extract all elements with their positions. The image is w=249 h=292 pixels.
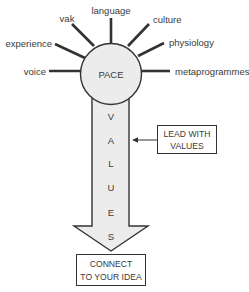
- arrow-letter-a: A: [108, 135, 115, 146]
- pace-diagram: voice experience vak language culture ph…: [0, 0, 249, 292]
- label-physiology: physiology: [169, 37, 214, 48]
- label-experience: experience: [6, 38, 52, 49]
- label-voice: voice: [24, 66, 46, 77]
- pace-label: PACE: [98, 69, 123, 80]
- arrow-letter-u: U: [108, 182, 115, 193]
- label-language: language: [91, 5, 130, 16]
- spoke-physiology: [138, 43, 164, 56]
- bottom-box-line2: TO YOUR IDEA: [80, 272, 142, 282]
- side-box-line1: LEAD WITH: [164, 129, 211, 139]
- arrow-letter-v: V: [108, 111, 115, 122]
- spoke-experience: [55, 44, 85, 58]
- label-metaprogrammes: metaprogrammes: [175, 66, 249, 77]
- arrow-letter-l: L: [108, 158, 113, 169]
- bottom-box-line1: CONNECT: [90, 259, 133, 269]
- arrow-letter-e: E: [108, 207, 114, 218]
- label-culture: culture: [153, 14, 182, 25]
- label-vak: vak: [60, 13, 75, 24]
- side-box-line2: VALUES: [170, 141, 204, 151]
- arrow-letter-s: S: [108, 231, 114, 242]
- arrowhead-left-icon: [132, 137, 138, 143]
- spoke-culture: [128, 24, 149, 46]
- spoke-vak: [72, 24, 94, 46]
